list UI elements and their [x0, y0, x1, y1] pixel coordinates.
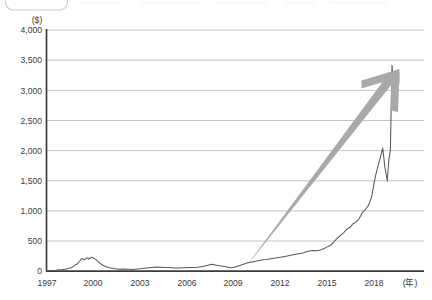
x-tick-2009: 2009: [223, 278, 242, 288]
y-tick-1500: 1,500: [20, 176, 42, 186]
gridlines: [46, 30, 424, 241]
x-tick-2018: 2018: [364, 278, 383, 288]
x-axis-tick-labels: 1997 2000 2003 2006 2009 2012 2015 2018 …: [37, 277, 417, 288]
x-tick-2012: 2012: [270, 278, 289, 288]
chart-figure: ($) 4,000 3,500 3,000 2,500 2,000 1,500 …: [0, 0, 432, 300]
y-tick-500: 500: [28, 236, 43, 246]
cropped-caption-strip: [78, 1, 388, 4]
y-tick-2000: 2,000: [20, 146, 42, 156]
x-tick-1997: 1997: [37, 278, 56, 288]
y-tick-0: 0: [37, 266, 42, 276]
upward-trend-arrow: [247, 69, 400, 266]
y-tick-3000: 3,000: [20, 86, 42, 96]
y-tick-4000: 4,000: [20, 25, 42, 35]
x-tick-2003: 2003: [130, 278, 149, 288]
x-axis-unit-label: (年): [403, 277, 418, 288]
y-axis-tick-labels: 4,000 3,500 3,000 2,500 2,000 1,500 1,00…: [20, 25, 42, 276]
y-tick-2500: 2,500: [20, 116, 42, 126]
stock-price-line-chart: ($) 4,000 3,500 3,000 2,500 2,000 1,500 …: [0, 0, 432, 300]
x-tick-2015: 2015: [317, 278, 336, 288]
share-price-line: [47, 65, 396, 270]
cropped-label-tag: [6, 0, 68, 10]
y-axis-unit-label: ($): [32, 15, 43, 25]
y-tick-1000: 1,000: [20, 206, 42, 216]
x-tick-2000: 2000: [83, 278, 102, 288]
x-tick-2006: 2006: [177, 278, 196, 288]
y-tick-3500: 3,500: [20, 55, 42, 65]
